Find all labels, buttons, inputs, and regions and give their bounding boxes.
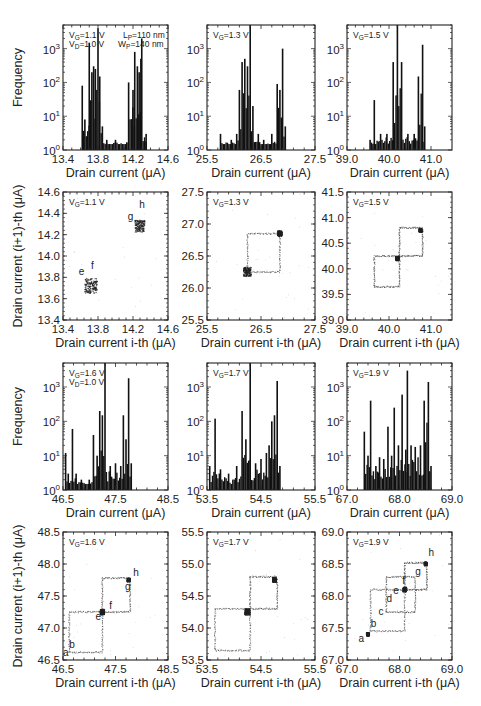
x-axis-label: Drain current i-th (μA) xyxy=(201,676,321,690)
panel-annotation: VG=1.3 V xyxy=(213,197,249,208)
x-axis-label: Drain current (μA) xyxy=(350,166,450,180)
y-tick-label: 54.0 xyxy=(182,622,204,634)
panel-annotation: VG=1.5 V xyxy=(353,197,389,208)
point-label-e: e xyxy=(79,266,85,277)
y-tick-label: 54.5 xyxy=(182,590,204,602)
x-tick-label: 47.5 xyxy=(104,493,126,505)
point-label-d: d xyxy=(386,593,392,604)
y-tick-label: 41.0 xyxy=(322,212,344,224)
plot-frame xyxy=(207,192,315,320)
y-tick-label: 102 xyxy=(327,75,345,89)
panel-annotation: VG=1.7 V xyxy=(213,537,249,548)
point-label-f: f xyxy=(402,575,405,586)
y-tick-label: 103 xyxy=(187,380,205,394)
point-label-g: g xyxy=(415,566,421,577)
y-tick-label: 102 xyxy=(187,414,205,428)
point-label-f: f xyxy=(91,260,94,271)
x-axis-label: Drain current (μA) xyxy=(66,506,166,520)
plot-frame xyxy=(207,25,315,150)
y-tick-label: 13.6 xyxy=(38,293,60,305)
y-tick-label: 41.5 xyxy=(322,186,344,198)
y-tick-label: 103 xyxy=(43,42,61,56)
y-axis-label: Drain current (i+1)-th (μA) xyxy=(11,525,25,668)
point-label-e: e xyxy=(96,611,102,622)
x-tick-label: 40.0 xyxy=(378,323,400,335)
x-tick-label: 27.5 xyxy=(304,153,326,165)
x-axis-label: Drain current (μA) xyxy=(211,166,311,180)
plot-frame xyxy=(207,532,315,660)
y-tick-label: 101 xyxy=(327,109,345,123)
scatter-points xyxy=(361,196,449,320)
point-label-a: a xyxy=(359,633,365,644)
y-tick-label: 55.0 xyxy=(182,558,204,570)
x-axis-label: Drain current (μA) xyxy=(66,166,166,180)
y-tick-label: 48.5 xyxy=(38,526,60,538)
point-label-a: a xyxy=(63,647,69,658)
histogram-bars xyxy=(364,371,432,490)
plot-frame xyxy=(63,192,168,320)
y-tick-label: 40.5 xyxy=(322,237,344,249)
y-tick-label: 55.5 xyxy=(182,526,204,538)
y-tick-label: 14.6 xyxy=(38,186,60,198)
point-label-h: h xyxy=(428,547,434,558)
panel-scatter-vg-1.6: abefgh46.547.548.546.547.047.548.048.5Dr… xyxy=(11,525,179,691)
panel-annotation: VG=1.3 V xyxy=(213,30,249,41)
y-tick-label: 103 xyxy=(327,380,345,394)
panel-annotation: VG=1.5 V xyxy=(353,30,389,41)
histogram-bars xyxy=(369,25,425,150)
histogram-bars xyxy=(220,25,286,150)
y-tick-label: 67.5 xyxy=(322,622,344,634)
y-tick-label: 101 xyxy=(187,109,205,123)
x-tick-label: 55.5 xyxy=(304,493,326,505)
y-tick-label: 13.4 xyxy=(38,314,61,326)
y-tick-label: 40.0 xyxy=(322,263,344,275)
y-tick-label: 101 xyxy=(43,109,61,123)
x-tick-label: 68.0 xyxy=(388,493,410,505)
y-axis-label: Frequency xyxy=(11,386,25,446)
point-label-e: e xyxy=(393,585,399,596)
x-tick-label: 68.0 xyxy=(388,663,410,675)
panel-scatter-vg-1.7: 53.554.555.553.554.054.555.055.5Drain cu… xyxy=(182,526,327,690)
y-tick-label: 27.5 xyxy=(182,186,204,198)
panel-annotation: VD=1.0 V xyxy=(69,39,105,50)
x-tick-label: 13.8 xyxy=(87,153,109,165)
panel-scatter-vg-1.3: 25.526.527.525.526.026.527.027.5Drain cu… xyxy=(182,186,327,350)
x-tick-label: 54.5 xyxy=(250,663,272,675)
panel-annotation: VG=1.1 V xyxy=(69,197,105,208)
figure-canvas: 13.413.814.214.6100101102103Drain curren… xyxy=(0,0,481,706)
y-tick-label: 102 xyxy=(43,75,61,89)
x-tick-label: 14.6 xyxy=(157,153,179,165)
y-tick-label: 47.0 xyxy=(38,622,60,634)
panel-hist-vg-1.1: 13.413.814.214.6100101102103Drain curren… xyxy=(11,25,179,180)
y-tick-label: 25.5 xyxy=(182,314,204,326)
x-tick-label: 26.5 xyxy=(250,323,272,335)
panel-annotation: VG=1.9 V xyxy=(353,537,389,548)
point-label-g: g xyxy=(125,581,131,592)
y-tick-label: 53.5 xyxy=(182,654,204,666)
x-tick-label: 48.5 xyxy=(157,493,179,505)
y-tick-label: 103 xyxy=(187,42,205,56)
scatter-points xyxy=(214,535,308,660)
x-tick-label: 40.0 xyxy=(378,153,400,165)
y-tick-label: 101 xyxy=(43,449,61,463)
y-tick-label: 67.0 xyxy=(322,654,344,666)
scatter-points xyxy=(63,193,157,307)
x-axis-label: Drain current (μA) xyxy=(211,506,311,520)
x-axis-label: Drain current i-th (μA) xyxy=(55,336,175,350)
x-axis-label: Drain current i-th (μA) xyxy=(55,676,175,690)
x-tick-label: 54.5 xyxy=(250,493,272,505)
point-label-g: g xyxy=(128,211,134,222)
y-tick-label: 102 xyxy=(43,414,61,428)
y-tick-label: 101 xyxy=(327,449,345,463)
y-tick-label: 13.8 xyxy=(38,271,60,283)
x-tick-label: 48.5 xyxy=(157,663,179,675)
point-label-h: h xyxy=(133,567,139,578)
x-tick-label: 41.0 xyxy=(420,323,442,335)
panel-hist-vg-1.6: 46.547.548.5100101102103Drain current (μ… xyxy=(11,363,179,520)
histogram-bars xyxy=(209,363,281,490)
x-tick-label: 69.0 xyxy=(441,493,463,505)
y-tick-label: 68.0 xyxy=(322,590,344,602)
scatter-points xyxy=(212,194,309,318)
panel-annotation: VG=1.9 V xyxy=(353,368,389,379)
x-tick-label: 14.6 xyxy=(157,323,179,335)
